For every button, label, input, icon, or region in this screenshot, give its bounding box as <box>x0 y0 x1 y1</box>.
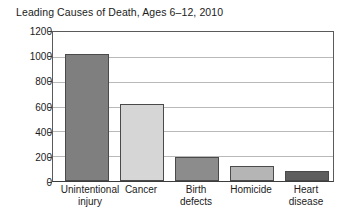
x-tick-line-1: Homicide <box>221 184 281 196</box>
x-tick-label-homicide: Homicide <box>221 184 281 196</box>
x-tick-line-1: Cancer <box>119 184 163 196</box>
y-axis: 1200 1000 800 600 400 200 0 <box>0 0 52 220</box>
plot-area <box>52 31 334 182</box>
y-tick-label-600: 600 <box>10 101 52 112</box>
x-tick-line-1: Heart <box>278 184 334 196</box>
x-tick-label-birth-defects: Birth defects <box>168 184 224 207</box>
y-tick-label-800: 800 <box>10 76 52 87</box>
bar-unintentional-injury <box>65 54 109 181</box>
y-tick-label-200: 200 <box>10 151 52 162</box>
x-tick-line-2: defects <box>168 196 224 208</box>
x-axis: Unintentional injury Cancer Birth defect… <box>52 184 334 218</box>
y-tick-mark-0 <box>48 182 52 183</box>
y-tick-label-400: 400 <box>10 126 52 137</box>
bar-cancer <box>120 104 164 181</box>
x-tick-label-heart-disease: Heart disease <box>278 184 334 207</box>
bar-birth-defects <box>175 157 219 181</box>
x-tick-label-cancer: Cancer <box>119 184 163 196</box>
bar-chart-figure: Leading Causes of Death, Ages 6–12, 2010… <box>0 0 344 220</box>
bar-heart-disease <box>285 171 329 181</box>
x-tick-line-2: disease <box>278 196 334 208</box>
bar-homicide <box>230 166 274 181</box>
x-tick-line-2: injury <box>46 196 134 208</box>
bar-series <box>53 32 333 181</box>
x-tick-line-1: Birth <box>168 184 224 196</box>
y-tick-label-1000: 1000 <box>10 51 52 62</box>
y-tick-label-1200: 1200 <box>10 26 52 37</box>
